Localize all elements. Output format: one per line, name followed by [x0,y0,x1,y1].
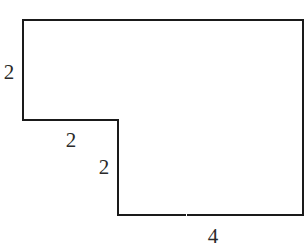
step-vertical-length-label: 2 [99,157,110,178]
l-shaped-figure [0,0,305,245]
step-horizontal-length-label: 2 [66,130,77,151]
bottom-side-length-label: 4 [208,226,219,245]
left-side-length-label: 2 [4,62,15,83]
